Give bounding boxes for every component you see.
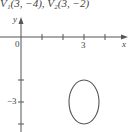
ellipse-curve <box>69 80 99 124</box>
origin-label: 0 <box>15 39 20 49</box>
y-axis-label: y <box>13 14 17 24</box>
coordinate-plot <box>0 0 131 132</box>
x-tick-label: 3 <box>81 40 86 50</box>
y-axis-arrow-icon <box>19 17 24 24</box>
x-axis-label: x <box>122 39 126 49</box>
y-tick-label: −3 <box>7 96 17 106</box>
